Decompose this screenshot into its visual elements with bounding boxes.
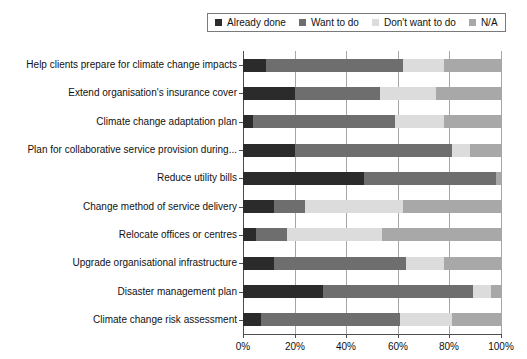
plot-area: 0%20%40%60%80%100% — [243, 51, 501, 334]
legend-swatch-icon — [469, 19, 476, 26]
bar-segment[interactable] — [253, 115, 395, 128]
legend-item[interactable]: Want to do — [299, 18, 359, 28]
legend-item[interactable]: Don't want to do — [372, 18, 456, 28]
bar-segment[interactable] — [274, 257, 406, 270]
x-axis-tick — [243, 334, 244, 338]
bar-segment[interactable] — [473, 285, 491, 298]
bar-segment[interactable] — [382, 228, 501, 241]
x-tick-label: 100% — [488, 341, 514, 352]
category-label: Plan for collaborative service provision… — [5, 144, 237, 155]
category-label: Reduce utility bills — [5, 172, 237, 183]
bar-segment[interactable] — [444, 257, 501, 270]
bar-segment[interactable] — [274, 200, 305, 213]
bar-row[interactable] — [243, 87, 501, 100]
bar-segment[interactable] — [295, 144, 452, 157]
bar-segment[interactable] — [406, 257, 445, 270]
bar-segment[interactable] — [452, 313, 501, 326]
bar-row[interactable] — [243, 172, 501, 185]
x-tick-label: 20% — [285, 341, 305, 352]
bar-segment[interactable] — [243, 87, 295, 100]
x-axis-line — [243, 334, 502, 335]
bar-segment[interactable] — [403, 200, 501, 213]
stacked-bar-chart: Already doneWant to doDon't want to doN/… — [0, 0, 527, 359]
bar-row[interactable] — [243, 285, 501, 298]
bar-row[interactable] — [243, 228, 501, 241]
bar-segment[interactable] — [364, 172, 496, 185]
bar-segment[interactable] — [323, 285, 473, 298]
bar-segment[interactable] — [444, 59, 501, 72]
bar-row[interactable] — [243, 200, 501, 213]
bar-segment[interactable] — [491, 285, 501, 298]
bar-segment[interactable] — [436, 87, 501, 100]
bar-segment[interactable] — [444, 115, 501, 128]
category-label: Disaster management plan — [5, 286, 237, 297]
x-tick-label: 80% — [439, 341, 459, 352]
bar-segment[interactable] — [243, 59, 266, 72]
x-axis-tick — [346, 334, 347, 338]
bar-segment[interactable] — [243, 313, 261, 326]
bar-segment[interactable] — [256, 228, 287, 241]
legend-swatch-icon — [372, 19, 379, 26]
bar-segment[interactable] — [243, 285, 323, 298]
legend-item[interactable]: Already done — [215, 18, 286, 28]
bar-segment[interactable] — [400, 313, 452, 326]
category-label: Climate change risk assessment — [5, 314, 237, 325]
legend-label: Want to do — [311, 18, 359, 28]
bar-segment[interactable] — [452, 144, 470, 157]
category-label: Climate change adaptation plan — [5, 116, 237, 127]
bar-segment[interactable] — [395, 115, 444, 128]
bar-row[interactable] — [243, 144, 501, 157]
legend-label: Don't want to do — [384, 18, 456, 28]
x-axis-tick — [501, 334, 502, 338]
bar-segment[interactable] — [243, 172, 364, 185]
bar-row[interactable] — [243, 313, 501, 326]
bar-segment[interactable] — [266, 59, 403, 72]
legend-item[interactable]: N/A — [469, 18, 498, 28]
x-tick-label: 40% — [336, 341, 356, 352]
bar-segment[interactable] — [261, 313, 400, 326]
bar-segment[interactable] — [496, 172, 501, 185]
bar-row[interactable] — [243, 59, 501, 72]
legend-label: N/A — [481, 18, 498, 28]
x-axis-tick — [449, 334, 450, 338]
x-axis-tick — [398, 334, 399, 338]
bar-segment[interactable] — [295, 87, 380, 100]
bar-segment[interactable] — [305, 200, 403, 213]
x-gridline — [501, 51, 502, 334]
bar-segment[interactable] — [243, 257, 274, 270]
bar-segment[interactable] — [470, 144, 501, 157]
bar-segment[interactable] — [243, 115, 253, 128]
legend-swatch-icon — [215, 19, 222, 26]
legend-label: Already done — [227, 18, 286, 28]
bar-segment[interactable] — [243, 200, 274, 213]
chart-legend: Already doneWant to doDon't want to doN/… — [207, 13, 506, 32]
category-label: Relocate offices or centres — [5, 229, 237, 240]
bar-segment[interactable] — [403, 59, 444, 72]
x-tick-label: 0% — [236, 341, 250, 352]
legend-swatch-icon — [299, 19, 306, 26]
category-label: Upgrade organisational infrastructure — [5, 257, 237, 268]
x-tick-label: 60% — [388, 341, 408, 352]
bar-segment[interactable] — [287, 228, 382, 241]
bar-segment[interactable] — [243, 228, 256, 241]
category-label: Help clients prepare for climate change … — [5, 59, 237, 70]
bar-segment[interactable] — [380, 87, 437, 100]
category-label: Change method of service delivery — [5, 201, 237, 212]
x-axis-tick — [295, 334, 296, 338]
bar-segment[interactable] — [243, 144, 295, 157]
bar-row[interactable] — [243, 115, 501, 128]
category-label: Extend organisation's insurance cover — [5, 87, 237, 98]
bar-row[interactable] — [243, 257, 501, 270]
